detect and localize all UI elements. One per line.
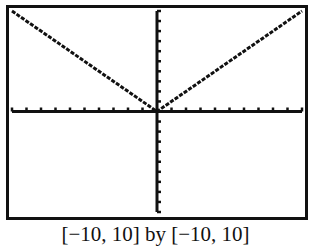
- plot-area: [0, 0, 311, 249]
- window-caption: [−10, 10] by [−10, 10]: [0, 222, 311, 247]
